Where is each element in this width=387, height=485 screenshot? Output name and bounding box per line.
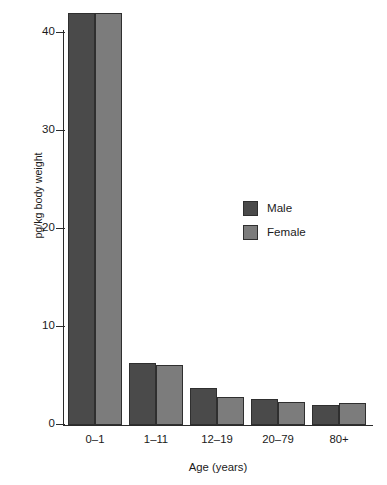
bar-male-80-plus	[312, 405, 339, 425]
x-axis-tick-label: 12–19	[187, 433, 247, 445]
x-axis-tick-label: 1–11	[126, 433, 186, 445]
bar-male-1-11	[129, 363, 156, 425]
bar-male-20-79	[251, 399, 278, 425]
legend-label-male: Male	[267, 202, 292, 214]
x-axis-tick-label: 20–79	[248, 433, 308, 445]
x-axis-tick-label: 0–1	[65, 433, 125, 445]
legend-label-female: Female	[267, 226, 306, 238]
x-axis-title: Age (years)	[63, 461, 373, 473]
x-axis-tick-label: 80+	[309, 433, 369, 445]
legend-item-female: Female	[243, 220, 306, 244]
bar-chart: 40 30 20 10 0 pg/kg body weight 0–1 1–11…	[0, 0, 387, 485]
legend-swatch-male	[243, 201, 258, 216]
bar-female-12-19	[217, 397, 244, 425]
bar-female-20-79	[278, 402, 305, 425]
bar-male-0-1	[68, 13, 95, 425]
legend-item-male: Male	[243, 196, 306, 220]
legend-swatch-female	[243, 225, 258, 240]
bar-female-0-1	[95, 13, 122, 425]
bar-male-12-19	[190, 388, 217, 425]
bar-female-1-11	[156, 365, 183, 425]
bar-female-80-plus	[339, 403, 366, 425]
x-axis-line	[63, 425, 373, 426]
bars-layer	[0, 0, 387, 485]
chart-legend: Male Female	[243, 196, 306, 244]
